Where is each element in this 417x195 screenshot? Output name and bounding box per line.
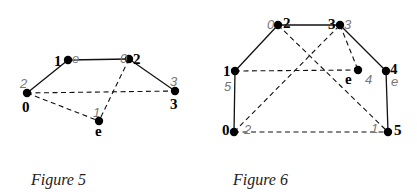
figure-5-nodes: [23, 55, 179, 125]
order-label-4: e: [391, 74, 398, 89]
order-label-e: 4: [365, 72, 372, 87]
node-2: [274, 21, 282, 29]
diagram-canvas: 1 e 2 0 2 0 3 3 1 e Figure 5 0 2 3 3 1 5…: [0, 0, 417, 195]
node-1: [231, 67, 239, 75]
node-1: [64, 56, 72, 64]
order-label-3: 3: [170, 74, 178, 89]
node-e: [354, 66, 362, 74]
node-label-1: 1: [54, 53, 62, 69]
node-3: [336, 21, 344, 29]
figure-5: 1 e 2 0 2 0 3 3 1 e Figure 5: [19, 51, 179, 189]
figure-6-labels: 0 2 3 3 1 5 e 4 4 e 0 2 1 5: [222, 15, 402, 138]
edge-0-3: [234, 25, 340, 132]
order-label-5: 1: [371, 121, 378, 136]
node-label-2: 2: [133, 51, 141, 67]
node-label-1: 1: [223, 63, 231, 79]
order-label-2: 0: [267, 17, 275, 32]
order-label-e: 1: [93, 105, 100, 120]
node-label-0: 0: [222, 122, 230, 138]
order-label-0: 2: [243, 122, 252, 137]
node-5: [384, 128, 392, 136]
node-label-0: 0: [22, 99, 30, 115]
edge-4-5: [386, 71, 388, 132]
order-label-2: 0: [120, 51, 128, 66]
edge-0-e: [27, 93, 99, 121]
order-label-3: 3: [344, 17, 352, 32]
node-label-e: e: [95, 123, 102, 139]
figure-5-labels: 1 e 2 0 2 0 3 3 1 e: [19, 51, 178, 139]
figure-5-caption: Figure 5: [30, 171, 86, 189]
node-label-3: 3: [170, 96, 178, 112]
edge-1-e: [235, 70, 358, 71]
edge-0-1: [234, 71, 235, 132]
node-label-3: 3: [328, 16, 336, 32]
order-label-1: 5: [224, 79, 232, 94]
figure-5-edges: [27, 59, 175, 121]
node-label-5: 5: [394, 122, 402, 138]
edge-0-3: [27, 91, 175, 93]
figure-6-caption: Figure 6: [232, 171, 288, 189]
order-label-0: 2: [19, 76, 28, 91]
edge-0-1: [27, 60, 68, 93]
node-0: [230, 128, 238, 136]
node-label-2: 2: [283, 15, 291, 31]
edge-2-e: [99, 59, 129, 121]
node-4: [382, 67, 390, 75]
node-label-e: e: [345, 71, 352, 87]
figure-6: 0 2 3 3 1 5 e 4 4 e 0 2 1 5 Figure 6: [222, 15, 402, 189]
order-label-1: e: [72, 51, 79, 66]
